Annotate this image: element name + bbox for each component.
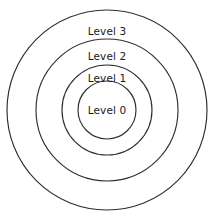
ring-label-level-1: Level 1 — [88, 72, 126, 84]
concentric-level-diagram: Level 3 Level 2 Level 1 Level 0 — [0, 0, 216, 221]
ring-label-level-3: Level 3 — [88, 25, 126, 37]
ring-label-level-2: Level 2 — [88, 50, 126, 62]
diagram-canvas: Level 3 Level 2 Level 1 Level 0 — [0, 0, 216, 221]
ring-label-level-0: Level 0 — [88, 104, 126, 116]
